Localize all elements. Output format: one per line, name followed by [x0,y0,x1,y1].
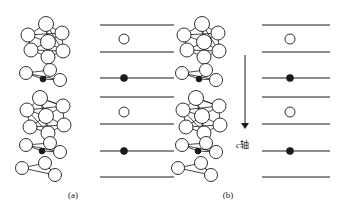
atom-circle [56,44,70,58]
atom-circle [213,118,227,132]
atom-circle [16,162,29,175]
atom-circle [205,169,218,182]
cluster-triangle-lower-a [20,137,67,159]
atom-circle [41,50,55,64]
atom-circle [176,103,190,117]
atom-dot-filled [40,76,46,82]
cluster-triangle-bottom-a [16,157,62,182]
panel-a-cluster-column [16,17,72,182]
c-axis-label-cjk: 轴 [240,140,249,150]
atom-circle [195,109,210,124]
atom-circle [189,91,204,106]
site-open-circle [119,107,129,117]
cluster-triangle-lower-b [176,137,223,159]
site-open-circle [285,34,295,44]
atom-circle [39,17,54,32]
atom-circle [44,137,57,150]
atom-circle [210,74,223,87]
atom-circle [172,162,185,175]
atom-circle [195,157,208,170]
c-axis-label: c轴 [236,138,249,151]
atom-circle [20,103,34,117]
atom-circle [212,99,226,113]
figure-canvas [0,0,337,214]
atom-circle [21,28,35,42]
site-open-circle [119,34,129,44]
atom-circle [39,157,52,170]
atom-circle [200,137,213,150]
crystal-structure-figure: c轴 (a) (b) [0,0,337,214]
atom-circle [176,67,189,80]
atom-circle [20,139,33,152]
panel-caption-b: (b) [208,190,248,200]
atom-circle [24,43,38,57]
atom-circle [49,169,62,182]
atom-circle [211,26,225,40]
atom-circle [39,109,54,124]
atom-circle [197,50,211,64]
atom-circle [195,17,210,32]
cluster-polyhedron-lower-a [20,91,71,141]
panel-caption-a: (a) [53,190,93,200]
atom-dot-filled [39,148,45,154]
atom-circle [44,64,57,77]
cluster-polyhedron-upper-a [21,17,70,65]
atom-circle [57,118,71,132]
atom-circle [176,139,189,152]
panel-b-cluster-column [172,17,228,182]
panel-a-layer-column [100,25,174,177]
site-filled-dot [287,75,293,81]
atom-circle [54,146,67,159]
atom-dot-filled [195,148,201,154]
atom-circle [56,99,70,113]
atom-circle [210,146,223,159]
atom-circle [180,43,194,57]
panel-b-layer-column [262,25,330,177]
cluster-triangle-bottom-b [172,157,218,182]
atom-circle [55,26,69,40]
atom-circle [41,35,56,50]
cluster-polyhedron-upper-b [177,17,226,65]
atom-circle [179,120,193,134]
atom-circle [33,91,48,106]
atom-circle [54,74,67,87]
cluster-triangle-middle-b [176,64,223,87]
cluster-triangle-middle-a [20,64,67,87]
atom-circle [23,120,37,134]
cluster-polyhedron-lower-b [176,91,227,141]
atom-circle [200,64,213,77]
site-open-circle [285,107,295,117]
site-filled-dot [121,75,127,81]
atom-circle [20,67,33,80]
atom-circle [197,35,212,50]
site-filled-dot [287,148,293,154]
atom-circle [212,44,226,58]
atom-circle [177,28,191,42]
site-filled-dot [121,148,127,154]
atom-dot-filled [196,76,202,82]
